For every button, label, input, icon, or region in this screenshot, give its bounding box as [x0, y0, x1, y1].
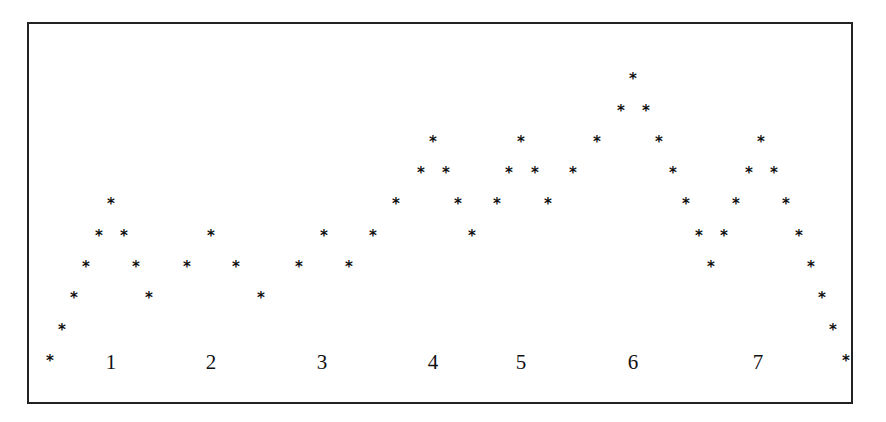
asterisk-point: *: [807, 260, 815, 275]
asterisk-point: *: [795, 229, 803, 244]
asterisk-point: *: [468, 229, 476, 244]
asterisk-point: *: [720, 229, 728, 244]
asterisk-point: *: [454, 197, 462, 212]
asterisk-point: *: [642, 104, 650, 119]
asterisk-point: *: [392, 197, 400, 212]
peak-label: 5: [516, 352, 527, 373]
asterisk-point: *: [417, 166, 425, 181]
peak-label: 6: [628, 352, 639, 373]
asterisk-point: *: [682, 197, 690, 212]
asterisk-point: *: [345, 260, 353, 275]
peak-label: 3: [317, 352, 328, 373]
asterisk-point: *: [46, 354, 54, 369]
asterisk-point: *: [593, 135, 601, 150]
asterisk-point: *: [818, 291, 826, 306]
asterisk-point: *: [429, 135, 437, 150]
asterisk-point: *: [295, 260, 303, 275]
asterisk-point: *: [132, 260, 140, 275]
asterisk-point: *: [669, 166, 677, 181]
asterisk-point: *: [257, 291, 265, 306]
asterisk-point: *: [531, 166, 539, 181]
asterisk-point: *: [320, 229, 328, 244]
diagram-frame: [27, 22, 853, 404]
asterisk-point: *: [732, 197, 740, 212]
asterisk-point: *: [95, 229, 103, 244]
asterisk-point: *: [695, 229, 703, 244]
asterisk-point: *: [757, 135, 765, 150]
asterisk-point: *: [493, 197, 501, 212]
asterisk-point: *: [544, 197, 552, 212]
asterisk-point: *: [107, 197, 115, 212]
asterisk-point: *: [569, 166, 577, 181]
peak-label: 4: [428, 352, 439, 373]
asterisk-point: *: [655, 135, 663, 150]
asterisk-point: *: [829, 323, 837, 338]
asterisk-point: *: [82, 260, 90, 275]
asterisk-point: *: [442, 166, 450, 181]
asterisk-point: *: [120, 229, 128, 244]
asterisk-point: *: [145, 291, 153, 306]
asterisk-point: *: [369, 229, 377, 244]
asterisk-point: *: [207, 229, 215, 244]
asterisk-point: *: [629, 72, 637, 87]
asterisk-point: *: [232, 260, 240, 275]
peak-label: 7: [753, 352, 764, 373]
asterisk-point: *: [707, 260, 715, 275]
asterisk-point: *: [842, 354, 850, 369]
asterisk-point: *: [505, 166, 513, 181]
asterisk-point: *: [183, 260, 191, 275]
asterisk-point: *: [517, 135, 525, 150]
asterisk-point: *: [770, 166, 778, 181]
asterisk-point: *: [70, 291, 78, 306]
peak-label: 1: [106, 352, 117, 373]
asterisk-point: *: [745, 166, 753, 181]
asterisk-point: *: [782, 197, 790, 212]
peak-label: 2: [206, 352, 217, 373]
asterisk-point: *: [617, 104, 625, 119]
asterisk-point: *: [58, 323, 66, 338]
